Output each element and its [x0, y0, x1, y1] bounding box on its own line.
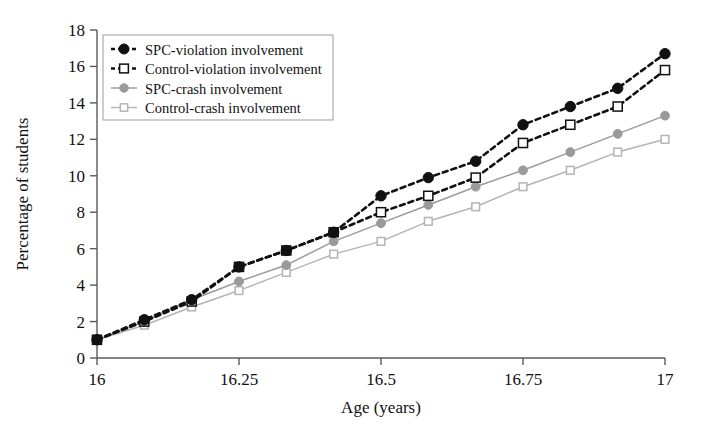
y-axis-tick-label: 18 [68, 21, 85, 40]
x-axis-tick-label: 16.75 [504, 370, 542, 389]
data-point-marker [120, 64, 129, 73]
data-point-marker [424, 191, 433, 200]
legend-item-label: SPC-crash involvement [145, 81, 282, 97]
data-point-marker [424, 217, 432, 225]
x-axis-tick-label: 16.25 [220, 370, 258, 389]
data-point-marker [660, 48, 670, 58]
data-point-marker [281, 245, 291, 255]
data-point-marker [614, 148, 622, 156]
data-point-marker [661, 111, 670, 120]
y-axis-tick-label: 12 [68, 130, 85, 149]
data-point-marker [471, 182, 480, 191]
data-point-marker [519, 183, 527, 191]
y-axis-tick-label: 6 [77, 240, 86, 259]
data-point-marker [470, 156, 480, 166]
data-point-marker [472, 203, 480, 211]
y-axis-tick-label: 10 [68, 167, 85, 186]
data-point-marker [377, 219, 386, 228]
x-axis-title: Age (years) [341, 398, 421, 417]
data-point-marker [660, 66, 669, 75]
data-point-marker [566, 166, 574, 174]
legend-item-label: Control-crash involvement [145, 100, 301, 116]
data-point-marker [423, 172, 433, 182]
data-point-marker [566, 148, 575, 157]
x-axis-tick-label: 17 [657, 370, 675, 389]
data-point-marker [330, 250, 338, 258]
data-point-marker [234, 262, 244, 272]
data-point-marker [235, 287, 243, 295]
data-point-marker [565, 101, 575, 111]
x-axis-tick-label: 16 [89, 370, 106, 389]
legend-item-label: Control-violation involvement [145, 61, 322, 77]
data-point-marker [518, 120, 528, 130]
data-point-marker [424, 201, 433, 210]
data-point-marker [235, 277, 244, 286]
chart-container: 024681012141618 1616.2516.516.7517 SPC-v… [0, 0, 702, 438]
data-point-marker [376, 191, 386, 201]
data-point-marker [566, 120, 575, 129]
chart-legend: SPC-violation involvementControl-violati… [103, 35, 333, 120]
data-point-marker [282, 261, 291, 270]
data-point-marker [613, 129, 622, 138]
data-point-marker [471, 173, 480, 182]
data-point-marker [329, 237, 338, 246]
data-point-marker [377, 238, 385, 246]
data-point-marker [119, 44, 129, 54]
legend-item-label: SPC-violation involvement [145, 42, 303, 58]
data-point-marker [519, 166, 528, 175]
y-axis-title: Percentage of students [13, 118, 32, 271]
data-point-marker [92, 335, 102, 345]
x-axis-tick-label: 16.5 [366, 370, 396, 389]
data-point-marker [518, 138, 527, 147]
y-axis-tick-label: 2 [77, 313, 86, 332]
y-axis-tick-label: 14 [68, 94, 86, 113]
line-chart: 024681012141618 1616.2516.516.7517 SPC-v… [0, 0, 702, 438]
data-point-marker [186, 294, 196, 304]
data-point-marker [328, 227, 338, 237]
y-axis-tick-label: 0 [77, 349, 86, 368]
data-point-marker [613, 102, 622, 111]
y-axis-tick-label: 16 [68, 57, 85, 76]
data-point-marker [139, 315, 149, 325]
data-point-marker [120, 84, 128, 92]
data-point-marker [661, 135, 669, 143]
data-point-marker [120, 104, 127, 111]
data-point-marker [612, 83, 622, 93]
y-axis-tick-label: 8 [77, 203, 86, 222]
data-point-marker [376, 208, 385, 217]
y-axis-tick-label: 4 [77, 276, 86, 295]
